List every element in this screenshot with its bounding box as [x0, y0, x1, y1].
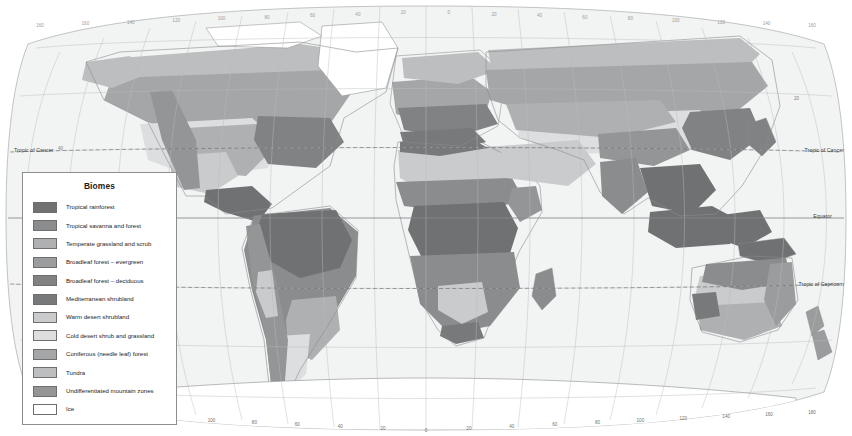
longitude-tick-label: 120: [172, 18, 180, 23]
longitude-tick-label: 0: [447, 10, 450, 15]
longitude-tick-label: 140: [127, 20, 135, 25]
longitude-tick-label: 60: [552, 422, 558, 427]
longitude-tick-label: 60: [582, 15, 588, 20]
longitude-tick-label: 80: [265, 15, 271, 20]
longitude-tick-label: 120: [679, 416, 687, 421]
longitude-tick-label: 80: [628, 16, 634, 21]
legend-row: Tundra: [23, 364, 176, 382]
legend-color-swatch: [33, 386, 57, 397]
longitude-tick-label: 40: [509, 424, 515, 429]
legend-item-label: Coniferous (needle leaf) forest: [66, 351, 148, 357]
legend-color-swatch: [33, 404, 57, 415]
longitude-tick-label: 160: [808, 23, 816, 28]
longitude-tick-label: 120: [717, 20, 725, 25]
legend-item-label: Mediterranean shrubland: [66, 296, 134, 302]
longitude-tick-label: 40: [338, 424, 344, 429]
legend-item-label: Warm desert shrubland: [66, 314, 129, 320]
legend-color-swatch: [33, 220, 57, 231]
longitude-tick-label: 100: [672, 18, 680, 23]
legend-panel: Biomes Tropical rainforestTropical savan…: [22, 172, 177, 425]
legend-color-swatch: [33, 202, 57, 213]
legend-row: Cold desert shrub and grassland: [23, 327, 176, 345]
longitude-tick-label: 100: [218, 16, 226, 21]
legend-row: Tropical rainforest: [23, 198, 176, 216]
longitude-tick-label: 160: [36, 23, 44, 28]
legend-item-label: Broadleaf forest – deciduous: [66, 278, 144, 284]
legend-row: Tropical savanna and forest: [23, 216, 176, 234]
longitude-tick-label: 60: [295, 422, 301, 427]
legend-color-swatch: [33, 257, 57, 268]
longitude-tick-label: 100: [208, 418, 216, 423]
legend-item-label: Tropical rainforest: [66, 204, 115, 210]
longitude-tick-label: 20: [401, 10, 407, 15]
legend-item-label: Tropical savanna and forest: [66, 223, 141, 229]
legend-row: Undifferentiated mountain zones: [23, 382, 176, 400]
legend-row: Temperate grassland and scrub: [23, 235, 176, 253]
longitude-tick-label: 20: [492, 12, 498, 17]
tropic-of-cancer-label-right: Tropic of Cancer: [805, 147, 844, 153]
longitude-tick-label: 20: [381, 426, 387, 431]
longitude-tick-label: 40: [537, 13, 543, 18]
legend-item-label: Tundra: [66, 370, 85, 376]
longitude-tick-label: 40: [355, 12, 361, 17]
legend-color-swatch: [33, 294, 57, 305]
legend-color-swatch: [33, 312, 57, 323]
legend-items-list: Tropical rainforestTropical savanna and …: [23, 198, 176, 419]
legend-color-swatch: [33, 367, 57, 378]
legend-row: Mediterranean shrubland: [23, 290, 176, 308]
legend-item-label: Ice: [66, 406, 74, 412]
legend-row: Broadleaf forest – evergreen: [23, 253, 176, 271]
legend-color-swatch: [33, 238, 57, 249]
legend-color-swatch: [33, 330, 57, 341]
longitude-tick-label: 0: [425, 428, 428, 433]
legend-item-label: Cold desert shrub and grassland: [66, 333, 154, 339]
longitude-tick-label: 80: [252, 420, 258, 425]
legend-color-swatch: [33, 349, 57, 360]
legend-row: Coniferous (needle leaf) forest: [23, 345, 176, 363]
legend-item-label: Temperate grassland and scrub: [66, 241, 151, 247]
longitude-tick-label: 160: [82, 21, 90, 26]
legend-row: Ice: [23, 400, 176, 418]
equator-label-right: Equator: [813, 213, 832, 219]
longitude-tick-label: 180: [808, 410, 816, 415]
legend-title: Biomes: [23, 181, 176, 191]
world-biomes-map-screenshot: 1801601401201008060402002040608010012014…: [0, 0, 852, 436]
longitude-tick-label: 140: [763, 21, 771, 26]
legend-color-swatch: [33, 275, 57, 286]
longitude-tick-label: 100: [637, 418, 645, 423]
longitude-tick-label: 140: [722, 414, 730, 419]
legend-row: Warm desert shrubland: [23, 308, 176, 326]
latitude-label-right: 20: [794, 96, 800, 101]
legend-row: Broadleaf forest – deciduous: [23, 272, 176, 290]
latitude-label-left: 40: [58, 146, 64, 151]
legend-item-label: Undifferentiated mountain zones: [66, 388, 154, 394]
longitude-tick-label: 60: [310, 13, 316, 18]
longitude-tick-label: 80: [595, 420, 601, 425]
tropic-of-capricorn-label-right: Tropic of Capricorn: [799, 281, 844, 287]
tropic-of-cancer-label-left: Tropic of Cancer: [14, 147, 53, 153]
longitude-tick-label: 160: [765, 412, 773, 417]
longitude-tick-label: 20: [466, 426, 472, 431]
legend-item-label: Broadleaf forest – evergreen: [66, 259, 143, 265]
